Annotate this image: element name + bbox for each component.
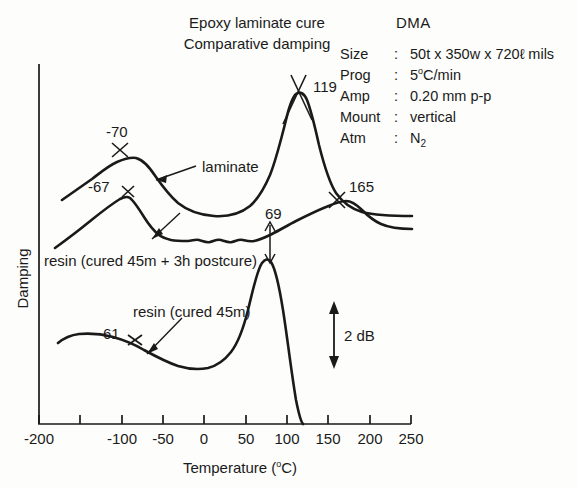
xtick-label: 0 xyxy=(181,430,227,447)
peak-marker-minus70 xyxy=(112,143,128,157)
annotation-minus67: -67 xyxy=(88,178,110,195)
peak-marker-minus61 xyxy=(128,335,142,345)
xtick-label: 100 xyxy=(264,430,310,447)
annotation-laminate: laminate xyxy=(202,158,259,175)
xtick-label: 250 xyxy=(388,430,434,447)
peak-marker-minus67 xyxy=(122,186,134,197)
xtick-label: -100 xyxy=(99,430,145,447)
figure-canvas: Epoxy laminate cure Comparative damping … xyxy=(0,0,577,488)
xtick-label: 150 xyxy=(305,430,351,447)
curve-resin-45m xyxy=(58,259,303,424)
curve-resin-postcure xyxy=(55,197,412,248)
xtick-label: 50 xyxy=(223,430,269,447)
axes xyxy=(39,64,411,424)
annotation-resin-postcure: resin (cured 45m + 3h postcure) xyxy=(44,252,257,269)
plot-svg xyxy=(0,0,577,488)
annotation-resin-45m: resin (cured 45m) xyxy=(133,303,251,320)
xtick-label: 200 xyxy=(347,430,393,447)
callout-resin-45m xyxy=(147,318,182,354)
peak-marker-69 xyxy=(265,222,275,263)
annotation-165: 165 xyxy=(349,178,374,195)
xtick-label: -200 xyxy=(16,430,62,447)
annotation-minus70: -70 xyxy=(106,123,128,140)
annotation-119: 119 xyxy=(313,78,337,95)
scale-bar-2db xyxy=(329,301,339,369)
annotation-minus61: -61 xyxy=(98,325,120,342)
x-axis-ticks xyxy=(39,415,411,424)
callout-laminate xyxy=(156,166,196,183)
xtick-label: -50 xyxy=(140,430,186,447)
scale-bar-label: 2 dB xyxy=(344,327,375,344)
annotation-69: 69 xyxy=(265,205,282,222)
callout-resin-postcure xyxy=(152,213,180,239)
